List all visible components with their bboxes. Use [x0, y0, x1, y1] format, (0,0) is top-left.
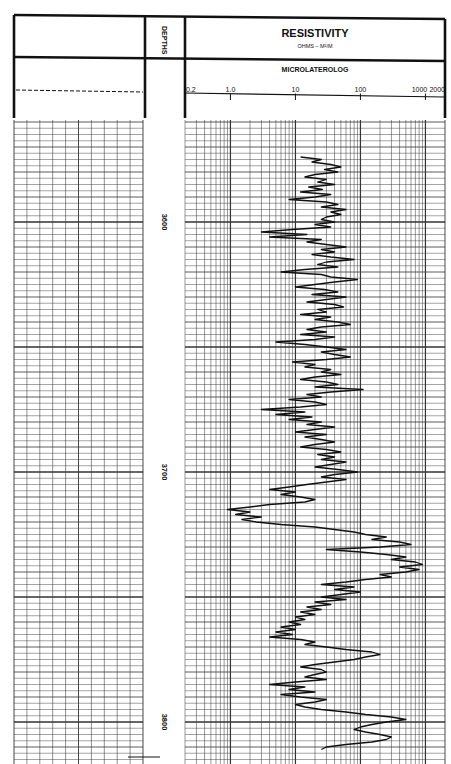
header: DEPTHS RESISTIVITY OHMS – M²/M MICROLATE… — [161, 26, 349, 73]
well-log-chart: DEPTHS RESISTIVITY OHMS – M²/M MICROLATE… — [0, 0, 451, 764]
track-units: OHMS – M²/M — [297, 43, 333, 49]
depth-label: 3600 — [160, 214, 169, 231]
depth-label: 3700 — [160, 464, 169, 481]
scale-label: 10 — [292, 86, 300, 93]
curve-name: MICROLATEROLOG — [282, 66, 349, 73]
depths-header-label: DEPTHS — [161, 26, 168, 55]
depth-labels: 360037003800 — [128, 214, 169, 757]
scale-label: 1.0 — [226, 86, 236, 93]
track-title: RESISTIVITY — [281, 27, 349, 39]
log-grid — [14, 120, 445, 764]
scale-labels: 0.21.01010010002000 — [186, 86, 445, 93]
scale-label: 100 — [355, 86, 367, 93]
depth-label: 3800 — [160, 714, 169, 731]
scale-label: 1000 — [412, 86, 428, 93]
scale-label: 2000 — [429, 86, 445, 93]
scale-label: 0.2 — [186, 86, 196, 93]
